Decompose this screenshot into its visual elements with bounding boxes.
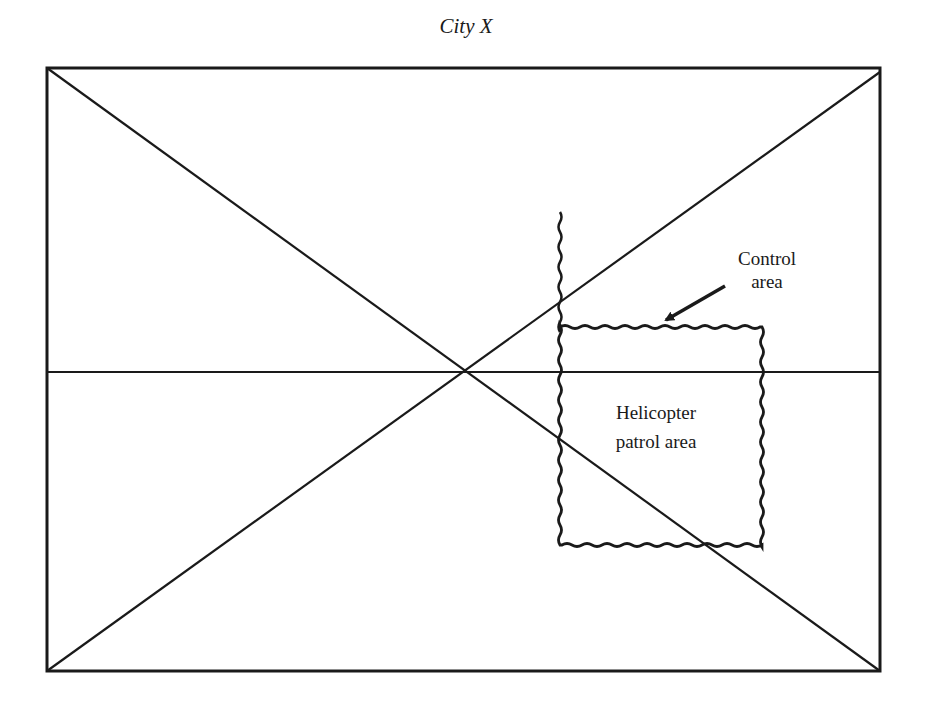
control-area-label-line2: area (751, 271, 783, 292)
city-diagram: City X Control area Helicopter patrol ar… (0, 0, 928, 717)
patrol-area-label-line1: Helicopter (616, 402, 697, 423)
diagram-title: City X (439, 14, 493, 38)
arrow-icon (666, 286, 725, 320)
patrol-area-label-line2: patrol area (616, 431, 697, 452)
control-area-label-line1: Control (738, 248, 796, 269)
control-boundary-wavy-line (559, 212, 562, 332)
